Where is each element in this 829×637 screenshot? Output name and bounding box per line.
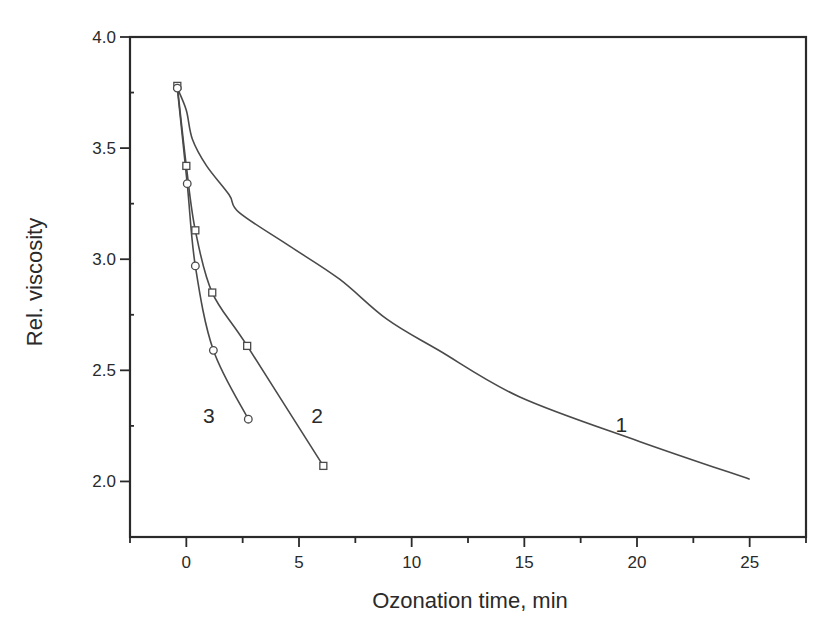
y-tick-label: 3.5 — [92, 139, 116, 158]
circle-marker — [174, 84, 182, 92]
circle-marker — [192, 262, 200, 270]
x-axis-title: Ozonation time, min — [372, 588, 568, 613]
circle-marker — [183, 180, 191, 188]
y-tick-label: 3.0 — [92, 250, 116, 269]
y-tick-label: 2.0 — [92, 472, 116, 491]
x-tick-label: 5 — [294, 553, 303, 572]
circle-marker — [210, 347, 218, 355]
square-marker — [183, 162, 190, 169]
curve-label-3: 3 — [203, 404, 215, 427]
x-tick-label: 25 — [740, 553, 759, 572]
y-tick-label: 2.5 — [92, 361, 116, 380]
x-tick-label: 15 — [515, 553, 534, 572]
square-marker — [192, 227, 199, 234]
circle-marker — [245, 415, 253, 423]
curve-label-1: 1 — [615, 413, 627, 436]
chart-background — [0, 0, 829, 637]
square-marker — [320, 462, 327, 469]
curve-label-2: 2 — [311, 404, 323, 427]
y-axis-title: Rel. viscosity — [22, 218, 47, 346]
chart: 0510152025 2.02.53.03.54.0 123 Ozonation… — [0, 0, 829, 637]
square-marker — [209, 289, 216, 296]
y-tick-label: 4.0 — [92, 28, 116, 47]
x-tick-label: 10 — [402, 553, 421, 572]
x-tick-label: 0 — [182, 553, 191, 572]
x-tick-label: 20 — [628, 553, 647, 572]
square-marker — [244, 342, 251, 349]
